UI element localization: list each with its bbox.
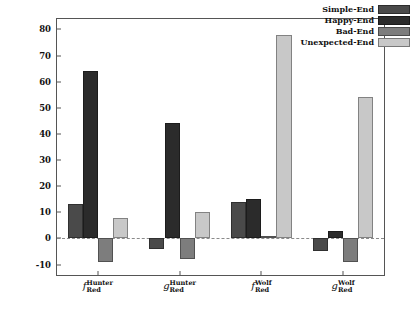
bar: [83, 71, 98, 238]
legend-item: Happy-End: [325, 15, 410, 25]
bar: [165, 123, 180, 238]
bar: [180, 238, 195, 259]
bar: [313, 238, 328, 251]
bar: [149, 238, 164, 248]
bar: [358, 97, 373, 238]
y-tick-label: 0: [45, 233, 51, 243]
legend-item: Unexpected-End: [301, 37, 410, 47]
bar: [68, 204, 83, 238]
bar: [276, 35, 291, 239]
legend-swatch: [378, 38, 410, 47]
bar: [231, 202, 246, 239]
y-tick-label: 60: [39, 77, 51, 87]
legend-swatch: [378, 5, 410, 14]
bar: [98, 238, 113, 262]
legend-label: Happy-End: [325, 15, 374, 25]
y-tick-mark: [57, 29, 61, 30]
bar: [113, 218, 128, 239]
x-tick-mark: [97, 271, 98, 275]
x-tick-label: fHunterRed: [83, 280, 113, 294]
x-tick-mark: [179, 271, 180, 275]
y-tick-label: 70: [39, 51, 51, 61]
y-tick-mark: [57, 81, 61, 82]
plot-area: -1001020304050607080 fHunterRedgHunterRe…: [56, 18, 385, 276]
y-tick-label: 50: [39, 103, 51, 113]
y-tick-label: 20: [39, 181, 51, 191]
legend-item: Simple-End: [322, 4, 410, 14]
legend-label: Unexpected-End: [301, 37, 374, 47]
bar: [261, 236, 276, 239]
y-tick-mark: [57, 186, 61, 187]
x-tick-label: gHunterRed: [163, 280, 196, 294]
y-tick-mark: [57, 107, 61, 108]
y-tick-label: 40: [39, 129, 51, 139]
y-tick-mark: [57, 264, 61, 265]
bar: [343, 238, 358, 262]
y-tick-mark: [57, 55, 61, 56]
chart-legend: Simple-EndHappy-EndBad-EndUnexpected-End: [301, 4, 410, 47]
x-tick-mark: [261, 271, 262, 275]
x-tick-label: fWolfRed: [251, 280, 271, 294]
y-tick-label: 80: [39, 24, 51, 34]
x-tick-label: gWolfRed: [332, 280, 355, 294]
bar: [195, 212, 210, 238]
legend-swatch: [378, 16, 410, 25]
x-tick-mark: [343, 271, 344, 275]
y-tick-mark: [57, 160, 61, 161]
bar: [328, 231, 343, 239]
legend-swatch: [378, 27, 410, 36]
legend-item: Bad-End: [336, 26, 410, 36]
y-tick-label: 10: [39, 207, 51, 217]
y-tick-label: 30: [39, 155, 51, 165]
y-tick-mark: [57, 212, 61, 213]
bar-chart-figure: -1001020304050607080 fHunterRedgHunterRe…: [0, 0, 416, 309]
y-tick-mark: [57, 133, 61, 134]
legend-label: Simple-End: [322, 4, 374, 14]
y-tick-label: -10: [36, 260, 51, 270]
legend-label: Bad-End: [336, 26, 374, 36]
bar: [246, 199, 261, 238]
